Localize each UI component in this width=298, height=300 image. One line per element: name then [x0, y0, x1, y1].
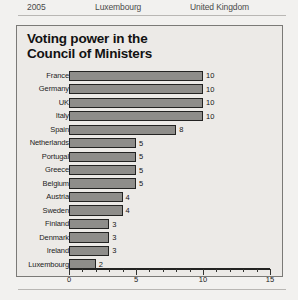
bar: [69, 192, 123, 202]
header-divider: [18, 15, 286, 16]
x-axis-tick-label: 10: [199, 275, 207, 284]
bar-category-label: Portugal: [0, 152, 69, 161]
chart-title-line-1: Voting power in the: [27, 32, 257, 47]
bar-track: 10: [69, 97, 281, 110]
bar-track: 8: [69, 124, 281, 137]
bar-row: Belgium5: [17, 178, 282, 191]
bar-value-label: 5: [139, 152, 143, 161]
bar-row: Portugal5: [17, 151, 282, 164]
bar-track: 4: [69, 191, 281, 204]
bar-value-label: 5: [139, 166, 143, 175]
x-axis-minor-tick: [123, 269, 124, 272]
x-axis-major-tick: [270, 269, 271, 275]
bar-row: Sweden4: [17, 205, 282, 218]
bar-value-label: 8: [179, 125, 183, 134]
bar-track: 5: [69, 137, 281, 150]
bar-category-label: Sweden: [0, 206, 69, 215]
page-header: 2005 Luxembourg United Kingdom: [0, 0, 298, 18]
x-axis-minor-tick: [109, 269, 110, 272]
bar-row: Austria4: [17, 191, 282, 204]
bar-row: France10: [17, 70, 282, 83]
x-axis-tick-label: 15: [266, 275, 274, 284]
bar-value-label: 4: [126, 193, 130, 202]
bar-track: 5: [69, 164, 281, 177]
bar-category-label: UK: [0, 98, 69, 107]
bar-row: Denmark3: [17, 232, 282, 245]
bar-track: 10: [69, 110, 281, 123]
bar: [69, 125, 176, 135]
x-axis-minor-tick: [243, 269, 244, 272]
x-axis-major-tick: [136, 269, 137, 275]
bar-value-label: 10: [206, 112, 214, 121]
bar-category-label: Netherlands: [0, 138, 69, 147]
bar-value-label: 3: [112, 220, 116, 229]
bar: [69, 138, 136, 148]
bar-value-label: 10: [206, 85, 214, 94]
bar-category-label: Spain: [0, 125, 69, 134]
bar-category-label: Finland: [0, 219, 69, 228]
chart-title-line-2: Council of Ministers: [27, 47, 257, 62]
bar: [69, 178, 136, 188]
bar: [69, 205, 123, 215]
bar: [69, 232, 109, 242]
bar: [69, 165, 136, 175]
bar-track: 3: [69, 218, 281, 231]
header-country-united-kingdom: United Kingdom: [190, 2, 249, 12]
x-axis-major-tick: [69, 269, 70, 275]
bar-row: UK10: [17, 97, 282, 110]
x-axis-minor-tick: [230, 269, 231, 272]
bar-row: Ireland3: [17, 245, 282, 258]
x-axis-minor-tick: [257, 269, 258, 272]
header-year: 2005: [27, 2, 46, 12]
bar-track: 3: [69, 245, 281, 258]
bar-value-label: 5: [139, 139, 143, 148]
bar-category-label: Greece: [0, 165, 69, 174]
bar-row: Greece5: [17, 164, 282, 177]
bar: [69, 98, 203, 108]
x-axis-tick-label: 5: [134, 275, 138, 284]
bar: [69, 111, 203, 121]
bar: [69, 84, 203, 94]
bar-rows: France10Germany10UK10Italy10Spain8Nether…: [17, 70, 282, 272]
plot-area: France10Germany10UK10Italy10Spain8Nether…: [17, 70, 282, 276]
bar-track: 10: [69, 83, 281, 96]
bar-track: 5: [69, 178, 281, 191]
bar-value-label: 10: [206, 71, 214, 80]
bar-value-label: 3: [112, 246, 116, 255]
bar-category-label: Germany: [0, 84, 69, 93]
bar-category-label: Belgium: [0, 179, 69, 188]
x-axis-minor-tick: [96, 269, 97, 272]
bar-value-label: 10: [206, 98, 214, 107]
bar-row: Finland3: [17, 218, 282, 231]
bar-value-label: 3: [112, 233, 116, 242]
bar: [69, 152, 136, 162]
x-axis-major-tick: [203, 269, 204, 275]
bar-track: 4: [69, 205, 281, 218]
bar-track: 5: [69, 151, 281, 164]
x-axis-minor-tick: [190, 269, 191, 272]
bar-track: 10: [69, 70, 281, 83]
x-axis-minor-tick: [163, 269, 164, 272]
bar-category-label: Denmark: [0, 233, 69, 242]
footer-divider: [18, 289, 286, 290]
bar-value-label: 4: [126, 206, 130, 215]
bar: [69, 71, 203, 81]
bar: [69, 246, 109, 256]
header-country-luxembourg: Luxembourg: [95, 2, 141, 12]
bar-row: Netherlands5: [17, 137, 282, 150]
bar-value-label: 5: [139, 179, 143, 188]
x-axis-tick-label: 0: [67, 275, 71, 284]
bar-category-label: Luxembourg: [0, 260, 69, 269]
bar-category-label: Austria: [0, 192, 69, 201]
bar-category-label: Italy: [0, 111, 69, 120]
bar-row: Spain8: [17, 124, 282, 137]
x-axis-minor-tick: [176, 269, 177, 272]
bar-category-label: France: [0, 71, 69, 80]
x-axis-minor-tick: [82, 269, 83, 272]
x-axis-minor-tick: [149, 269, 150, 272]
bar: [69, 219, 109, 229]
bar-row: Italy10: [17, 110, 282, 123]
x-axis-minor-tick: [216, 269, 217, 272]
chart-title: Voting power in the Council of Ministers: [27, 32, 257, 61]
bar-category-label: Ireland: [0, 246, 69, 255]
